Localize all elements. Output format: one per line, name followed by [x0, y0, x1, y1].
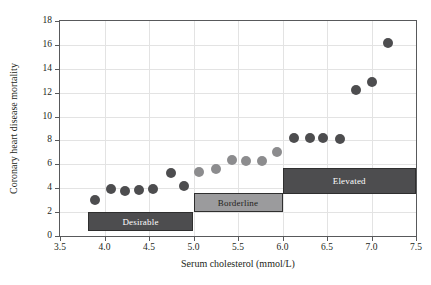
data-point	[383, 38, 393, 48]
data-point	[257, 156, 267, 166]
data-point	[90, 195, 100, 205]
x-gridline	[105, 21, 106, 236]
y-axis-tick	[55, 117, 60, 118]
x-gridline	[149, 21, 150, 236]
x-axis-tick-label: 6.0	[277, 243, 289, 253]
data-point	[211, 164, 221, 174]
y-axis-tick-label: 16	[43, 40, 53, 50]
y-axis-label: Coronary heart disease mortality	[8, 20, 22, 237]
x-axis-tick-label: 5.0	[188, 243, 200, 253]
x-gridline	[327, 21, 328, 236]
x-axis-tick-label: 6.5	[321, 243, 333, 253]
data-point	[166, 168, 176, 178]
x-gridline	[372, 21, 373, 236]
x-axis-tick	[105, 236, 106, 241]
data-point	[335, 134, 345, 144]
y-axis-tick	[55, 93, 60, 94]
x-axis-tick-label: 3.5	[54, 243, 66, 253]
category-band-label: Desirable	[122, 217, 158, 227]
data-point	[305, 133, 315, 143]
x-axis-tick	[194, 236, 195, 241]
y-axis-tick	[55, 212, 60, 213]
data-point	[120, 186, 130, 196]
data-point	[134, 185, 144, 195]
y-axis-tick-label: 6	[47, 160, 52, 170]
category-band-label: Borderline	[218, 198, 259, 208]
x-axis-label: Serum cholesterol (mmol/L)	[59, 258, 417, 269]
x-axis-tick-label: 5.5	[232, 243, 244, 253]
y-axis-tick-label: 8	[47, 136, 52, 146]
x-axis-tick	[149, 236, 150, 241]
y-axis-tick	[55, 21, 60, 22]
data-point	[106, 184, 116, 194]
x-axis-tick-label: 4.5	[143, 243, 155, 253]
category-band-desirable: Desirable	[88, 212, 194, 231]
x-axis-tick	[372, 236, 373, 241]
y-axis-tick-label: 2	[47, 207, 52, 217]
x-axis-tick	[60, 236, 61, 241]
data-point	[272, 147, 282, 157]
chart-figure: 0246810121416183.54.04.55.05.56.06.57.07…	[0, 0, 431, 285]
data-point	[194, 167, 204, 177]
x-axis-tick-label: 7.5	[410, 243, 422, 253]
x-axis-tick	[238, 236, 239, 241]
x-axis-tick	[283, 236, 284, 241]
data-point	[318, 133, 328, 143]
y-axis-tick-label: 18	[43, 16, 53, 26]
data-point	[367, 77, 377, 87]
category-band-elevated: Elevated	[283, 168, 417, 194]
data-point	[289, 133, 299, 143]
x-axis-tick-label: 4.0	[99, 243, 111, 253]
y-axis-tick	[55, 45, 60, 46]
x-axis-tick	[416, 236, 417, 241]
y-axis-tick-label: 14	[43, 64, 53, 74]
data-point	[351, 85, 361, 95]
data-point	[148, 184, 158, 194]
data-point	[227, 155, 237, 165]
category-band-label: Elevated	[333, 176, 366, 186]
y-axis-tick	[55, 164, 60, 165]
y-axis-tick-label: 0	[47, 231, 52, 241]
y-axis-tick	[55, 188, 60, 189]
y-axis-tick-label: 10	[43, 112, 53, 122]
data-point	[241, 156, 251, 166]
x-axis-tick	[327, 236, 328, 241]
y-axis-tick-label: 12	[43, 88, 53, 98]
plot-area: 0246810121416183.54.04.55.05.56.06.57.07…	[59, 20, 417, 237]
data-point	[179, 181, 189, 191]
x-gridline	[283, 21, 284, 236]
y-axis-tick	[55, 140, 60, 141]
y-axis-tick	[55, 69, 60, 70]
category-band-borderline: Borderline	[194, 193, 283, 212]
x-axis-tick-label: 7.0	[366, 243, 378, 253]
y-axis-tick-label: 4	[47, 183, 52, 193]
